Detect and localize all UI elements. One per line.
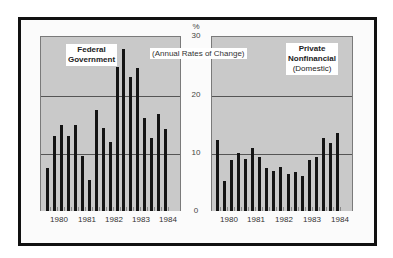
minor-tick [255, 207, 256, 211]
bar [308, 160, 311, 211]
minor-tick [126, 207, 127, 211]
chart-subtitle: (Annual Rates of Change) [150, 48, 247, 59]
bar [272, 171, 275, 211]
bar [251, 148, 254, 211]
bar [329, 143, 332, 211]
bar [315, 157, 318, 211]
bar [294, 172, 297, 211]
minor-tick [147, 207, 148, 211]
minor-tick [333, 207, 334, 211]
minor-tick [161, 207, 162, 211]
minor-tick [64, 207, 65, 211]
minor-tick [241, 207, 242, 211]
bar [258, 157, 261, 211]
minor-tick [262, 207, 263, 211]
minor-tick [106, 207, 107, 211]
left-title-line2: Government [68, 55, 115, 64]
bar [102, 128, 105, 211]
bar [53, 136, 56, 211]
bar [116, 67, 119, 211]
bar [237, 153, 240, 211]
bar [265, 168, 268, 211]
y-unit-label: % [186, 22, 206, 31]
minor-tick [283, 207, 284, 211]
right-panel-title: Private Nonfinancial (Domestic) [286, 43, 338, 75]
minor-tick [57, 207, 58, 211]
minor-tick [50, 207, 51, 211]
bar [122, 49, 125, 211]
right-title-line2: Nonfinancial [288, 54, 336, 63]
minor-tick [154, 207, 155, 211]
bar [129, 77, 132, 211]
bar [46, 168, 49, 211]
bar [287, 174, 290, 211]
minor-tick [269, 207, 270, 211]
bar [109, 142, 112, 211]
minor-tick [319, 207, 320, 211]
minor-tick [326, 207, 327, 211]
minor-tick [85, 207, 86, 211]
minor-tick [220, 207, 221, 211]
y-tick-30: 30 [186, 31, 206, 40]
x-tick-1983-left: 1983 [129, 215, 153, 224]
minor-tick [78, 207, 79, 211]
x-tick-1984-right: 1984 [328, 215, 352, 224]
bar [74, 125, 77, 211]
right-title-line1: Private [299, 44, 326, 53]
x-tick-1980-right: 1980 [217, 215, 241, 224]
minor-tick [305, 207, 306, 211]
bar [223, 181, 226, 211]
bar [81, 156, 84, 211]
minor-tick [312, 207, 313, 211]
minor-tick [92, 207, 93, 211]
left-title-line1: Federal [77, 45, 105, 54]
bar [322, 138, 325, 212]
gridline-20 [41, 96, 180, 97]
left-panel-title: Federal Government [66, 44, 117, 66]
minor-tick [298, 207, 299, 211]
x-tick-1980-left: 1980 [47, 215, 71, 224]
bar [95, 110, 98, 211]
minor-tick [248, 207, 249, 211]
bar [244, 159, 247, 212]
minor-tick [120, 207, 121, 211]
bar [136, 68, 139, 211]
bar [164, 129, 167, 211]
minor-tick [133, 207, 134, 211]
minor-tick [113, 207, 114, 211]
bar [143, 118, 146, 211]
minor-tick [340, 207, 341, 211]
bar [336, 133, 339, 211]
bar [216, 140, 219, 211]
bar [67, 136, 70, 211]
x-tick-1983-right: 1983 [300, 215, 324, 224]
minor-tick [291, 207, 292, 211]
minor-tick [234, 207, 235, 211]
bar [301, 176, 304, 211]
minor-tick [140, 207, 141, 211]
minor-tick [168, 207, 169, 211]
x-tick-1981-right: 1981 [244, 215, 268, 224]
bar [230, 160, 233, 211]
x-tick-1982-left: 1982 [102, 215, 126, 224]
y-tick-0: 0 [186, 206, 206, 215]
x-tick-1982-right: 1982 [272, 215, 296, 224]
bar [157, 114, 160, 211]
x-tick-1984-left: 1984 [156, 215, 180, 224]
x-tick-1981-left: 1981 [75, 215, 99, 224]
minor-tick [227, 207, 228, 211]
gridline-20 [212, 96, 352, 97]
minor-tick [99, 207, 100, 211]
right-title-line3: (Domestic) [293, 64, 332, 73]
bar [88, 180, 91, 212]
y-tick-10: 10 [186, 148, 206, 157]
bar [60, 125, 63, 211]
y-tick-20: 20 [186, 90, 206, 99]
minor-tick [276, 207, 277, 211]
minor-tick [71, 207, 72, 211]
bar [279, 167, 282, 211]
bar [150, 138, 153, 212]
